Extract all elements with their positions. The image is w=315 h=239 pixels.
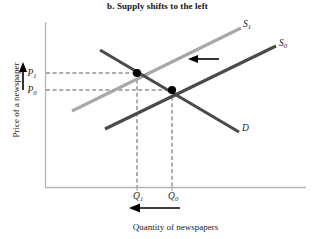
equilibrium-point-original <box>168 86 176 94</box>
chart-canvas: S1 S0 D P1 P0 Q1 Q0 <box>0 0 315 239</box>
quantity-label-q0: Q0 <box>168 191 179 202</box>
equilibrium-point-new <box>133 69 141 77</box>
x-axis-label: Quantity of newspapers <box>45 222 306 232</box>
supply-curve-s0-label: S0 <box>279 38 288 49</box>
quantity-decrease-arrow <box>129 204 180 213</box>
supply-demand-figure: b. Supply shifts to the left <box>0 0 315 239</box>
supply-shift-arrow <box>188 55 219 63</box>
y-axis-label: Price of a newspaper <box>11 40 21 160</box>
demand-curve-label: D <box>241 123 249 133</box>
price-label-p1: P1 <box>26 68 36 79</box>
price-label-p0: P0 <box>26 85 37 96</box>
supply-curve-s1 <box>72 28 241 111</box>
quantity-label-q1: Q1 <box>133 191 143 202</box>
supply-curve-s1-label: S1 <box>243 19 251 30</box>
